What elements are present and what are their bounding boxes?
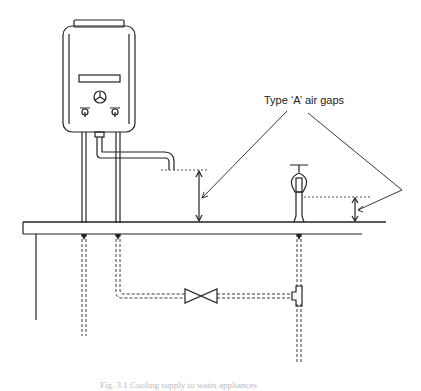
stop-valve-icon (185, 289, 217, 303)
right-tap-icon (110, 108, 120, 117)
heater-pipes (82, 132, 174, 223)
pillar-tap-icon (290, 165, 308, 222)
air-gap-diagram (0, 0, 421, 391)
tee-fitting-icon (292, 286, 302, 306)
figure-caption: Fig. 3.1 Cooling supply to water applian… (100, 380, 257, 390)
concealed-pipework (82, 234, 301, 362)
display-panel (79, 75, 120, 82)
air-gap-spout (161, 170, 208, 221)
worktop (23, 222, 386, 320)
left-tap-icon (80, 108, 90, 117)
pipe-markers (81, 234, 302, 240)
water-heater-icon (63, 20, 135, 137)
air-gap-label: Type ‘A’ air gaps (264, 94, 344, 106)
air-gap-tap (304, 197, 372, 221)
